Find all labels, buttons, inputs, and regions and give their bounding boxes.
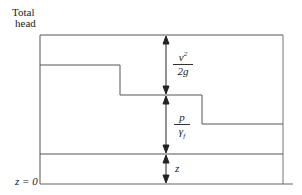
- elevation-head-arrow: [163, 155, 169, 183]
- stepped-head-line: [40, 65, 283, 124]
- velocity-head-arrow: [163, 36, 169, 94]
- total-head-label-line2: head: [15, 18, 36, 29]
- velocity-denominator: 2g: [173, 66, 193, 77]
- velocity-exponent: 2: [184, 50, 188, 58]
- datum-label: z = 0: [15, 176, 38, 187]
- elevation-head-label: z: [175, 163, 179, 174]
- pressure-symbol: p: [174, 112, 190, 123]
- pressure-head-label: p γf: [174, 112, 190, 137]
- fluid-subscript: f: [183, 132, 185, 140]
- velocity-head-label: v2 2g: [173, 52, 193, 77]
- pressure-head-arrow: [163, 96, 169, 153]
- head-diagram-canvas: [0, 0, 302, 195]
